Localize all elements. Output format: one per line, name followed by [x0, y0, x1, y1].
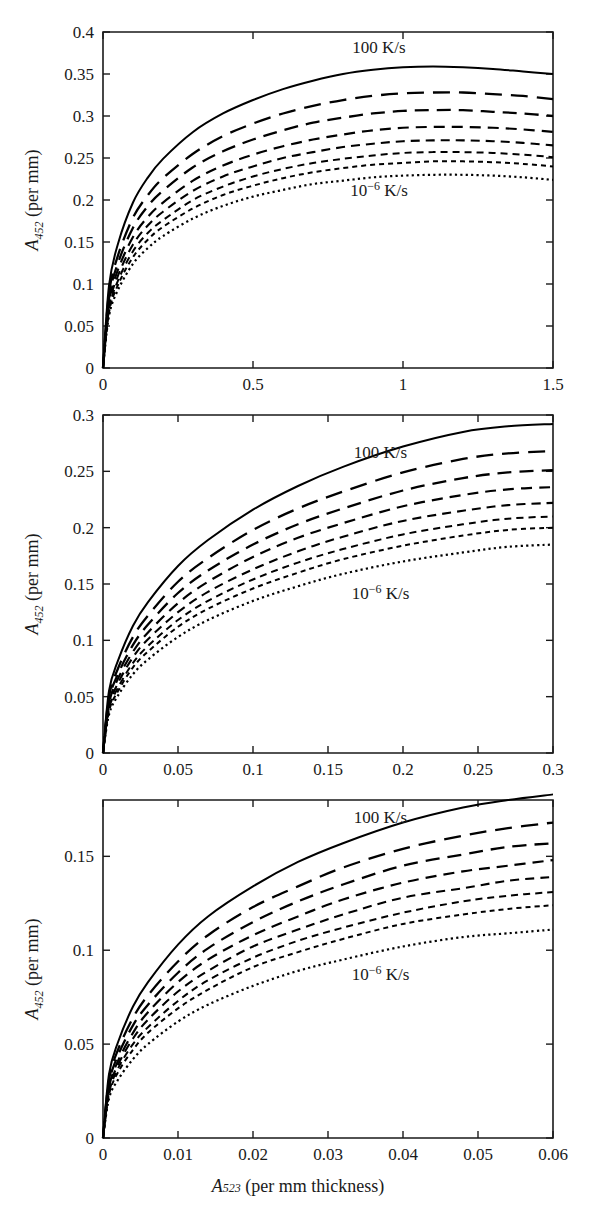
curve-10-6-k-s — [103, 175, 553, 368]
x-tick-label: 0.04 — [388, 1145, 418, 1164]
y-axis-title-text: A452 (per mm) — [22, 919, 46, 1021]
x-tick-label: 0 — [99, 760, 108, 779]
curve-10-6-k-s — [103, 930, 553, 1138]
annotation-tail: K/s — [380, 181, 408, 200]
curve-0-1-k-s — [103, 487, 553, 753]
annotation-base: 10 — [352, 965, 369, 984]
y-tick-label: 0.25 — [64, 462, 94, 481]
y-tick-label: 0.25 — [64, 149, 94, 168]
x-tick-label: 1.5 — [542, 375, 563, 394]
y-axis-title-units: (per mm) — [22, 150, 43, 222]
x-tick-label: 0.1 — [242, 760, 263, 779]
y-tick-label: 0 — [86, 359, 95, 378]
figure-three-panel-absorbance: 00.511.500.050.10.150.20.250.30.350.4A45… — [0, 0, 596, 1220]
y-axis-title-subscript: 452 — [32, 221, 46, 239]
y-tick-label: 0.05 — [64, 688, 94, 707]
x-tick-label: 0.05 — [463, 1145, 493, 1164]
annotation-1e-6-ks: 10−6 K/s — [352, 582, 410, 603]
y-tick-label: 0.15 — [64, 575, 94, 594]
panel-bottom: 00.010.020.030.040.050.0600.050.10.15A45… — [0, 785, 596, 1220]
y-tick-label: 0.3 — [73, 107, 94, 126]
annotation-exponent: −6 — [369, 963, 382, 977]
y-tick-label: 0.3 — [73, 406, 94, 425]
x-tick-label: 0 — [99, 375, 108, 394]
annotation-tail: K/s — [381, 584, 409, 603]
annotation-tail: K/s — [381, 965, 409, 984]
y-axis-title-text: A452 (per mm) — [22, 534, 46, 636]
y-axis-title: A452 (per mm) — [22, 919, 46, 1021]
x-tick-label: 0.25 — [463, 760, 493, 779]
x-tick-label: 1 — [399, 375, 408, 394]
x-axis-title-units: (per mm thickness) — [241, 1176, 384, 1196]
panel-middle: 00.050.10.150.20.250.300.050.10.150.20.2… — [0, 400, 596, 785]
curve-1e-4-k-s — [103, 905, 553, 1138]
x-axis-title-subscript: 523 — [223, 1181, 241, 1195]
x-tick-label: 0 — [99, 1145, 108, 1164]
curve-0-1-k-s — [103, 127, 553, 368]
curve-1e-4-k-s — [103, 528, 553, 753]
x-tick-label: 0.15 — [313, 760, 343, 779]
y-tick-label: 0.1 — [73, 275, 94, 294]
y-tick-label: 0.4 — [73, 23, 95, 42]
y-tick-label: 0.15 — [64, 847, 94, 866]
annotation-100-ks: 100 K/s — [354, 443, 407, 462]
y-tick-label: 0 — [86, 1129, 95, 1148]
annotation-100-ks: 100 K/s — [354, 808, 407, 827]
y-tick-label: 0 — [86, 744, 95, 763]
curve-1-k-s — [103, 843, 553, 1138]
y-tick-label: 0.15 — [64, 233, 94, 252]
y-tick-label: 0.05 — [64, 317, 94, 336]
y-tick-label: 0.05 — [64, 1035, 94, 1054]
curve-1e-4-k-s — [103, 161, 553, 368]
curve-10-6-k-s — [103, 545, 553, 753]
plot-frame — [103, 415, 553, 753]
y-axis-title-subscript: 452 — [32, 605, 46, 623]
x-axis-title: A523 (per mm thickness) — [0, 1176, 596, 1197]
plot-middle: 00.050.10.150.20.250.300.050.10.150.20.2… — [0, 400, 596, 785]
annotation-100-ks: 100 K/s — [352, 38, 405, 57]
y-tick-label: 0.2 — [73, 519, 94, 538]
x-tick-label: 0.2 — [392, 760, 413, 779]
annotation-1e-6-ks: 10−6 K/s — [352, 963, 410, 984]
x-tick-label: 0.05 — [163, 760, 193, 779]
y-axis-title-units: (per mm) — [22, 534, 43, 606]
y-tick-label: 0.2 — [73, 191, 94, 210]
plot-top: 00.511.500.050.10.150.20.250.30.350.4A45… — [0, 0, 596, 400]
annotation-exponent: −6 — [369, 582, 382, 596]
annotation-base: 10 — [352, 584, 369, 603]
curve-0-01-k-s — [103, 140, 553, 368]
x-tick-label: 0.01 — [163, 1145, 193, 1164]
panel-top: 00.511.500.050.10.150.20.250.30.350.4A45… — [0, 0, 596, 400]
annotation-exponent: −6 — [367, 179, 380, 193]
x-tick-label: 0.5 — [242, 375, 263, 394]
x-tick-label: 0.02 — [238, 1145, 268, 1164]
plot-bottom: 00.010.020.030.040.050.0600.050.10.15A45… — [0, 785, 596, 1220]
annotation-base: 10 — [350, 181, 367, 200]
x-tick-label: 0.06 — [538, 1145, 568, 1164]
y-axis-title: A452 (per mm) — [22, 150, 46, 252]
y-axis-title-text: A452 (per mm) — [22, 150, 46, 252]
x-tick-label: 0.3 — [542, 760, 563, 779]
x-tick-label: 0.03 — [313, 1145, 343, 1164]
plot-frame — [103, 32, 553, 368]
y-axis-title: A452 (per mm) — [22, 534, 46, 636]
curve-0-01-k-s — [103, 503, 553, 753]
curve-10-k-s — [103, 92, 553, 368]
curve-10-k-s — [103, 451, 553, 753]
y-axis-title-subscript: 452 — [32, 990, 46, 1008]
x-axis-title-symbol: A — [212, 1176, 223, 1196]
curve-0-01-k-s — [103, 877, 553, 1138]
annotation-1e-6-ks: 10−6 K/s — [350, 179, 408, 200]
curve-1e-3-k-s — [103, 516, 553, 753]
y-tick-label: 0.1 — [73, 631, 94, 650]
y-tick-label: 0.1 — [73, 941, 94, 960]
curve-0-1-k-s — [103, 860, 553, 1138]
y-tick-label: 0.35 — [64, 65, 94, 84]
y-axis-title-units: (per mm) — [22, 919, 43, 991]
curve-1-k-s — [103, 470, 553, 753]
curve-100-k-s — [103, 794, 553, 1138]
